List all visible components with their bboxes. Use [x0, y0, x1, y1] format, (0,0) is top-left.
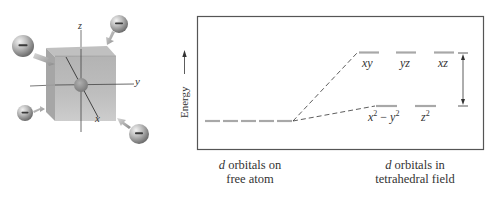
tetrahedral-geometry: z y x [12, 15, 149, 144]
charge-top-right [110, 15, 128, 33]
energy-arrow-icon [182, 50, 186, 57]
lower-levels: x2 − y2 z2 [367, 106, 436, 124]
charge-bottom-left [17, 105, 33, 121]
orbital-label-z2: z2 [420, 109, 430, 124]
z-axis-label: z [77, 20, 82, 31]
caption-tetrahedral-field: d orbitals in tetrahedral field [360, 158, 470, 186]
energy-label: Energy [178, 86, 190, 118]
correlation-line-upper [293, 53, 357, 121]
x-axis-label: x [94, 112, 100, 124]
splitting-indicator [458, 53, 468, 106]
orbital-label-xy: xy [361, 56, 373, 70]
y-axis-label: y [134, 75, 140, 87]
arrow-down-icon [461, 99, 465, 105]
diagram-frame [198, 17, 484, 150]
arrow-bottom-left-icon [33, 106, 45, 113]
arrow-bottom-right-icon [117, 118, 131, 129]
charge-top-left [12, 35, 34, 57]
orbital-label-xz: xz [437, 56, 448, 70]
energy-level-diagram: Energy xy yz xz x2 − y2 [178, 17, 484, 150]
charge-bottom-right [129, 124, 149, 144]
energy-axis: Energy [178, 50, 190, 118]
orbital-label-x2-y2: x2 − y2 [367, 109, 399, 124]
central-atom [74, 78, 88, 92]
upper-levels: xy yz xz [359, 53, 454, 71]
arrow-up-icon [461, 54, 465, 60]
caption-free-atom: d orbitals on free atom [200, 158, 300, 186]
arrow-top-right-icon [106, 31, 115, 45]
orbital-label-yz: yz [399, 56, 410, 70]
